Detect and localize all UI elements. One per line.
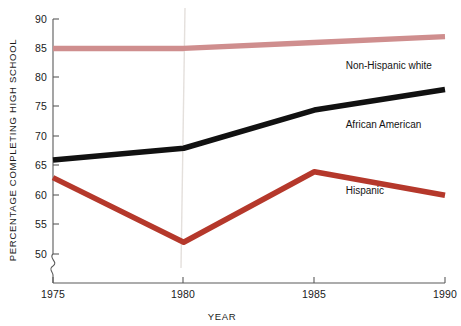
y-axis-title: PERCENTAGE COMPLETING HIGH SCHOOL — [7, 39, 18, 261]
y-tick-label-85: 85 — [35, 42, 47, 54]
y-tick-label-65: 65 — [35, 159, 47, 171]
x-tick-label-1985: 1985 — [302, 288, 326, 300]
line-chart: 90 85 80 75 70 65 60 55 50 1975 1980 198… — [0, 0, 461, 326]
series-label-non-hispanic-white: Non-Hispanic white — [346, 60, 433, 71]
y-tick-label-70: 70 — [35, 130, 47, 142]
y-tick-label-55: 55 — [35, 218, 47, 230]
series-label-african-american: African American — [346, 119, 422, 130]
y-axis-break-icon — [51, 254, 55, 275]
series-label-hispanic: Hispanic — [346, 185, 384, 196]
x-tick-label-1980: 1980 — [171, 288, 195, 300]
chart-container: 90 85 80 75 70 65 60 55 50 1975 1980 198… — [0, 0, 461, 326]
y-tick-label-75: 75 — [35, 100, 47, 112]
y-tick-label-90: 90 — [35, 13, 47, 25]
series-line-non-hispanic-white — [53, 37, 445, 49]
x-axis-title: YEAR — [208, 311, 237, 322]
y-tick-label-80: 80 — [35, 71, 47, 83]
x-tick-label-1990: 1990 — [433, 288, 457, 300]
x-tick-label-1975: 1975 — [41, 288, 65, 300]
y-tick-label-60: 60 — [35, 189, 47, 201]
series-line-hispanic — [53, 172, 445, 243]
y-tick-label-50: 50 — [35, 248, 47, 260]
